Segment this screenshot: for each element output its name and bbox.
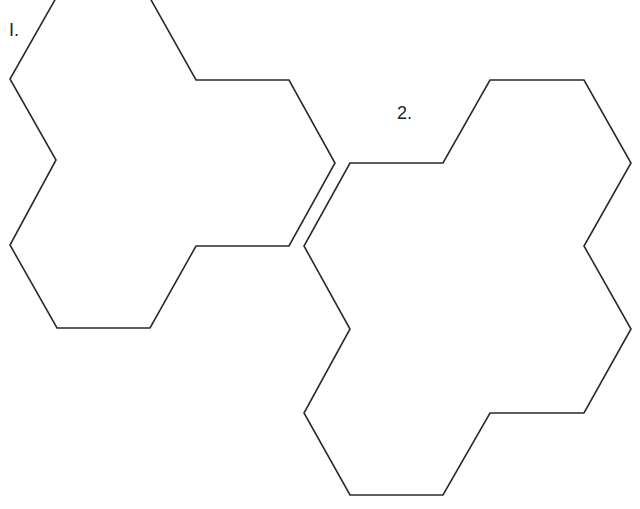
hex-cluster-shape-2: [304, 80, 631, 495]
shape-2-label: 2.: [397, 104, 412, 122]
shape-1-label: I.: [9, 21, 19, 39]
diagram-canvas: [0, 0, 640, 509]
hex-cluster-shape-1: [10, 0, 335, 328]
